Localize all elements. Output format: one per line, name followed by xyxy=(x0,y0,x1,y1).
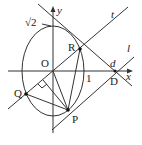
right-angle-mark-icon xyxy=(38,84,47,88)
point-Q xyxy=(24,92,28,96)
y-axis-arrow-icon xyxy=(51,6,56,12)
geometry-diagram: y x O 1 √2 R P Q D t l d xyxy=(0,0,142,145)
point-R xyxy=(78,47,82,51)
label-R: R xyxy=(68,41,76,53)
sqrt2-leader xyxy=(42,24,51,26)
label-D: D xyxy=(110,75,118,87)
x-axis-label: x xyxy=(125,70,131,82)
line-l xyxy=(52,57,134,130)
tangent-line-d xyxy=(38,4,132,86)
point-D xyxy=(114,70,117,73)
y-axis-label: y xyxy=(56,4,62,16)
tick-label-1: 1 xyxy=(86,72,92,84)
segment-OP xyxy=(53,71,68,110)
label-l: l xyxy=(127,42,130,54)
tick-label-sqrt2: √2 xyxy=(25,16,37,28)
label-P: P xyxy=(72,113,78,125)
point-P xyxy=(66,108,70,112)
label-d: d xyxy=(110,57,116,69)
segment-RP xyxy=(68,49,80,110)
origin-label: O xyxy=(41,57,49,69)
label-Q: Q xyxy=(14,87,22,99)
